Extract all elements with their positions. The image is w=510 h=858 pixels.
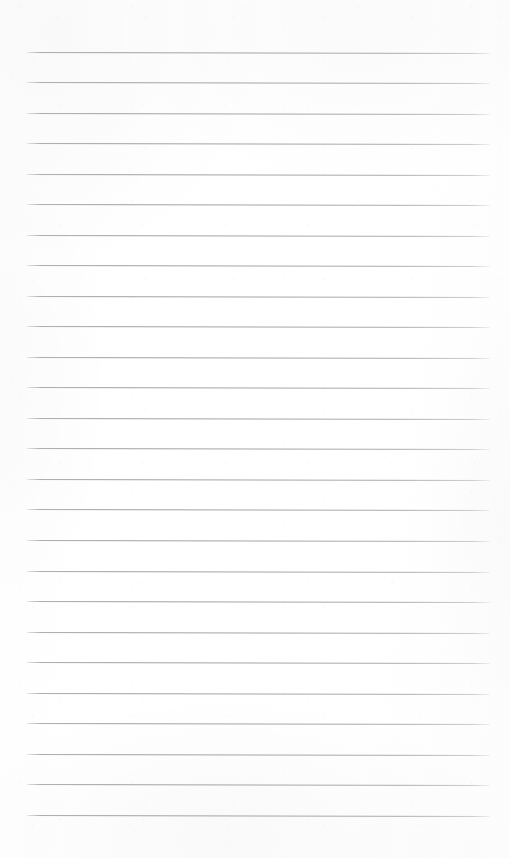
ruled-line <box>27 693 490 695</box>
ruled-line <box>27 509 490 511</box>
ruled-line <box>27 754 490 756</box>
ruled-lines-layer <box>0 0 510 858</box>
ruled-line <box>27 113 490 115</box>
ruled-line <box>27 235 490 237</box>
ruled-line <box>27 784 490 786</box>
ruled-line <box>27 448 490 450</box>
ruled-line <box>27 418 490 420</box>
ruled-line <box>27 82 490 84</box>
ruled-line <box>27 265 490 267</box>
ruled-line <box>27 204 490 206</box>
ruled-line <box>27 326 490 328</box>
ruled-line <box>27 632 490 634</box>
ruled-line <box>27 540 490 542</box>
ruled-line <box>27 387 490 389</box>
ruled-line <box>27 296 490 298</box>
ruled-line <box>27 143 490 145</box>
ruled-line <box>27 571 490 573</box>
ruled-line <box>27 815 490 817</box>
ruled-line <box>27 479 490 481</box>
ruled-line <box>27 723 490 725</box>
ruled-line <box>27 174 490 176</box>
ruled-line <box>27 52 490 54</box>
ruled-line <box>27 662 490 664</box>
ruled-line <box>27 601 490 603</box>
notepad-page <box>0 0 510 858</box>
ruled-line <box>27 357 490 359</box>
